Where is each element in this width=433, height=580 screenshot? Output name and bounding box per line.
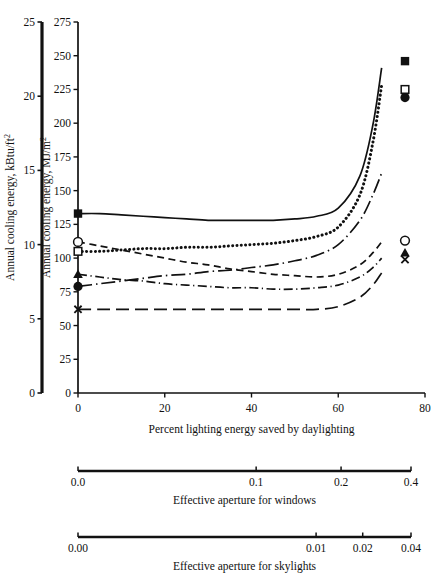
y-axis-tick-label: 25 [60, 353, 72, 365]
filled-circle-marker [400, 93, 409, 102]
y-axis-tick-label: 125 [54, 218, 72, 230]
cooling-energy-figure: 0510152025Annual cooling energy, kBtu/ft… [0, 0, 433, 580]
end-marker-series-longdash-bottom [401, 256, 408, 263]
secondary-axis-tick-label-skylights: 0.01 [306, 542, 326, 554]
filled-triangle-marker [400, 248, 410, 257]
secondary-axis-tick-label-windows: 0.1 [249, 476, 264, 488]
left-axis-tick-label: 5 [29, 313, 35, 325]
start-marker-series-solid [74, 209, 82, 217]
left-axis-tick-label: 25 [24, 16, 36, 28]
y-axis-title: Annual cooling energy, MJ/m2 [39, 137, 53, 278]
start-marker-series-longdashdot-rising [73, 282, 82, 291]
left-axis-title: Annual cooling energy, kBtu/ft2 [3, 134, 17, 281]
end-marker-series-longdashdot-rising [400, 93, 409, 102]
y-axis-tick-label: 275 [54, 16, 72, 28]
end-marker-series-dotted [401, 86, 409, 94]
end-marker-series-solid [401, 57, 409, 65]
left-axis-tick-label: 0 [29, 387, 35, 399]
x-axis-tick-label: 0 [75, 402, 81, 414]
secondary-axis-tick-label-skylights: 0.00 [68, 542, 88, 554]
start-marker-series-dashed-descending [74, 238, 83, 247]
open-circle-marker [401, 236, 410, 245]
filled-square-marker [401, 57, 409, 65]
secondary-axis-tick-label-windows: 0.2 [334, 476, 349, 488]
left-axis-title-text: Annual cooling energy, kBtu/ft2 [3, 134, 17, 281]
x-axis-title: Percent lighting energy saved by dayligh… [149, 423, 355, 436]
left-axis-tick-label: 15 [24, 164, 36, 176]
open-square-marker [74, 248, 82, 256]
start-marker-series-dotted [74, 248, 82, 256]
y-axis-tick-label: 150 [54, 185, 72, 197]
x-axis-tick-label: 40 [246, 402, 258, 414]
series-line-series-longdash-bottom [78, 273, 382, 310]
filled-triangle-marker [73, 269, 83, 278]
open-circle-marker [74, 238, 83, 247]
secondary-axis-tick-label-skylights: 0.04 [401, 542, 421, 554]
secondary-axis-tick-label-skylights: 0.02 [353, 542, 373, 554]
series-line-series-dashdot-flat [78, 258, 382, 289]
y-axis-tick-label: 0 [65, 387, 71, 399]
y-axis-tick-label: 250 [54, 50, 72, 62]
y-axis-tick-label: 225 [54, 83, 72, 95]
y-axis-tick-label: 175 [54, 151, 72, 163]
filled-circle-marker [73, 282, 82, 291]
y-axis-tick-label: 200 [54, 117, 72, 129]
secondary-axis-title-skylights: Effective aperture for skylights [173, 560, 317, 573]
filled-square-marker [74, 209, 82, 217]
secondary-axis-title-windows: Effective aperture for windows [173, 494, 317, 507]
y-axis-tick-label: 100 [54, 252, 72, 264]
y-axis-tick-label: 75 [60, 286, 72, 298]
start-marker-series-dashdot-flat [73, 269, 83, 278]
end-marker-series-dashed-descending [401, 236, 410, 245]
open-square-marker [401, 86, 409, 94]
x-axis-tick-label: 60 [333, 402, 345, 414]
end-marker-series-dashdot-flat [400, 248, 410, 257]
x-axis-tick-label: 80 [419, 402, 431, 414]
secondary-axis-tick-label-windows: 0.4 [404, 476, 419, 488]
secondary-axis-tick-label-windows: 0.0 [71, 476, 86, 488]
series-line-series-dotted [78, 85, 382, 251]
left-axis-tick-label: 10 [24, 239, 36, 251]
x-axis-tick-label: 20 [159, 402, 171, 414]
series-line-series-longdashdot-rising [78, 173, 382, 286]
left-axis-tick-label: 20 [24, 90, 36, 102]
series-line-series-solid [78, 68, 382, 221]
secondary-axis-skylights: 0.000.010.020.04Effective aperture for s… [68, 533, 421, 574]
y-axis-tick-label: 50 [60, 320, 72, 332]
secondary-axis-windows: 0.00.10.20.4Effective aperture for windo… [71, 467, 419, 508]
chart-canvas: 0510152025Annual cooling energy, kBtu/ft… [0, 0, 433, 580]
y-axis-title-text: Annual cooling energy, MJ/m2 [39, 137, 53, 278]
